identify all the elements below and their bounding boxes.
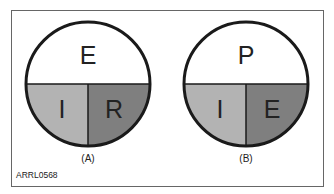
label-power: P [238, 41, 255, 69]
label-voltage: E [264, 95, 281, 123]
figure-code: ARRL0568 [16, 170, 58, 180]
caption-b: (B) [239, 153, 252, 164]
caption-a: (A) [81, 153, 94, 164]
power-law-circle: P I E (B) [184, 22, 308, 164]
ohms-law-circle: E I R (A) [26, 22, 150, 164]
label-current: I [59, 95, 66, 123]
label-voltage: E [80, 41, 97, 69]
formula-circles: E I R (A) P I E (B) ARRL0568 [0, 0, 334, 194]
label-resistance: R [105, 95, 123, 123]
label-current: I [217, 95, 224, 123]
